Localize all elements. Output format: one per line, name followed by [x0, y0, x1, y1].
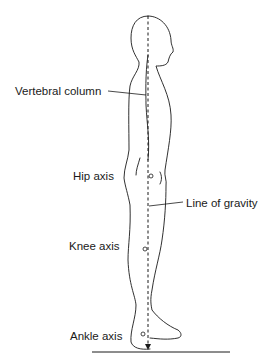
label-knee-axis: Knee axis [69, 241, 120, 253]
body-outline-back [124, 16, 150, 349]
posture-diagram: Vertebral column Hip axis Line of gravit… [0, 0, 264, 364]
arm-outline [136, 158, 140, 175]
label-ankle-axis: Ankle axis [70, 331, 122, 343]
label-vertebral-column: Vertebral column [15, 86, 101, 98]
body-outline-front [148, 16, 181, 339]
hip-axis-marker [149, 174, 153, 178]
label-line-of-gravity: Line of gravity [186, 198, 258, 210]
body-outline-figure [0, 0, 264, 364]
vertebral-column-leader [108, 91, 146, 95]
thigh-line [160, 172, 162, 184]
label-hip-axis: Hip axis [73, 171, 114, 183]
ankle-axis-marker [141, 332, 145, 336]
knee-axis-marker [143, 247, 147, 251]
